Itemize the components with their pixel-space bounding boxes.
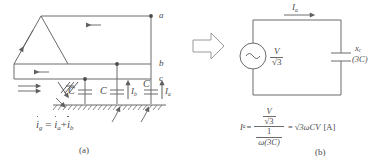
- eq-b-compound-fraction: V √3 1 ω(3C): [254, 107, 284, 147]
- eq-b-inner-denominator-fraction: 1 ω(3C): [256, 127, 282, 146]
- node-label-a: a: [159, 11, 164, 20]
- eq-a-lhs-sub: g: [39, 124, 42, 131]
- eq-b-denominator: 1 ω(3C): [254, 126, 284, 146]
- arrow-delta-limb: [21, 30, 33, 51]
- eq-a-term1-symbol: i: [54, 119, 57, 130]
- eq-b-result: √3ωCV: [295, 123, 321, 132]
- delta-winding: [14, 16, 68, 64]
- capacitor-label-3: C: [143, 79, 150, 89]
- capacitor-label-xc: xc: [355, 44, 361, 54]
- eq-b-num-top: V: [263, 107, 276, 116]
- current-label-ib: Ib: [131, 87, 137, 97]
- node-label-b: b: [159, 59, 164, 68]
- equation-panel-a: ig = ia+ib: [36, 119, 73, 132]
- figure-root: a b c C C C Ib Ia ig = ia+ib (a) Ia V √3…: [0, 0, 378, 164]
- capacitor-label-2: C: [100, 86, 107, 96]
- xc-sub: c: [359, 47, 361, 53]
- eq-b-lhs-sub: a: [243, 124, 246, 129]
- eq-b-equals-1: =: [246, 123, 251, 132]
- eq-a-term2-sub: b: [70, 124, 73, 131]
- current-ia-sub: a: [168, 91, 171, 97]
- eq-b-num-bottom: √3: [263, 116, 276, 126]
- current-ib-sub: b: [134, 91, 137, 97]
- eq-b-equals-2: =: [288, 123, 293, 132]
- node-dot-b: [115, 62, 119, 66]
- panel-caption-b: (b): [315, 148, 326, 157]
- arrow-supply-pair: [18, 86, 36, 91]
- source-denominator: √3: [270, 57, 283, 68]
- panel-b-schematic: [240, 15, 351, 95]
- eq-b-numerator: V √3: [254, 107, 284, 126]
- pointer-hook-1: [112, 111, 118, 122]
- eq-b-inner-numerator-fraction: V √3: [263, 107, 276, 126]
- node-label-c: c: [159, 74, 163, 83]
- ground-hook-arrow: [56, 98, 62, 104]
- eq-b-den-top: 1: [256, 127, 282, 136]
- source-numerator: V: [270, 47, 283, 57]
- current-label-ia-top: Ia: [292, 3, 298, 13]
- source-label-v-over-root3: V √3: [270, 47, 283, 67]
- node-dot-c: [83, 77, 87, 81]
- capacitor-value-3c: (3C): [352, 55, 368, 64]
- source-fraction: V √3: [270, 47, 283, 67]
- pointer-hook-2: [141, 111, 147, 122]
- eq-b-den-bottom: ω(3C): [256, 137, 282, 147]
- eq-a-term2-symbol: i: [67, 119, 70, 130]
- ground-hatching: [53, 105, 162, 110]
- panel-a-schematic: [14, 14, 166, 122]
- block-arrow-right: [193, 33, 224, 59]
- panel-caption-a: (a): [79, 146, 89, 155]
- node-dot-a: [149, 14, 153, 18]
- equation-panel-b: Ia = V √3 1 ω(3C) = √3ωCV [A]: [240, 107, 335, 147]
- capacitor-plates: [78, 90, 158, 94]
- eq-a-lhs-symbol: i: [36, 119, 39, 130]
- current-ia-top-sub: a: [295, 7, 298, 13]
- ac-sine-glyph: [246, 54, 260, 59]
- eq-b-unit: [A]: [323, 123, 335, 132]
- current-label-ia: Ia: [165, 87, 171, 97]
- eq-a-equals: =: [45, 118, 51, 130]
- capacitor-label-1: C: [68, 86, 75, 96]
